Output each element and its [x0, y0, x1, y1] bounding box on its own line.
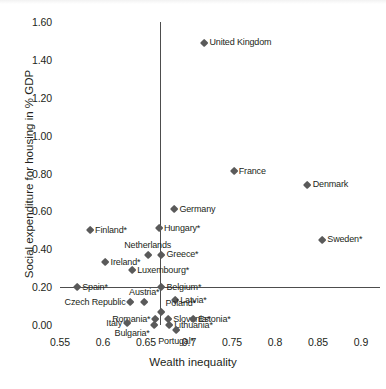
diamond-marker-icon — [101, 258, 110, 267]
y-tick-label: 0.00 — [18, 319, 52, 331]
data-point-label: Greece* — [166, 250, 198, 259]
data-point-label: Austria* — [129, 288, 159, 297]
data-point-label: Lithuania* — [174, 321, 213, 330]
data-point-label: Netherlands — [124, 241, 171, 250]
diamond-marker-icon — [157, 307, 166, 316]
data-point-label: Poland* — [165, 299, 195, 308]
diamond-marker-icon — [73, 283, 82, 292]
y-axis-title: Social expenditure for housing in % GDP — [23, 49, 35, 299]
data-point-label: Italy — [106, 319, 122, 328]
diamond-marker-icon — [303, 180, 312, 189]
data-point-label: Germany — [179, 205, 215, 214]
data-point-label: Spain* — [82, 283, 108, 292]
x-tick-label: 0.75 — [212, 336, 252, 348]
plot-area: 0.000.200.400.600.801.001.201.401.60 0.5… — [0, 0, 386, 389]
y-tick-label: 1.60 — [18, 16, 52, 28]
x-tick-label: 0.55 — [40, 336, 80, 348]
diamond-marker-icon — [229, 167, 238, 176]
data-point-label: Sweden* — [327, 235, 362, 244]
diamond-marker-icon — [149, 320, 158, 329]
bottom-margin — [0, 377, 386, 389]
data-point-label: Luxembourg* — [137, 266, 189, 275]
x-tick-label: 0.9 — [341, 336, 381, 348]
x-axis-title: Wealth inequality — [0, 356, 386, 368]
diamond-marker-icon — [126, 298, 135, 307]
data-point-label: France — [239, 167, 266, 176]
data-point-label: Bulgaria* — [115, 329, 150, 338]
diamond-marker-icon — [157, 250, 166, 259]
x-tick-label: 0.85 — [298, 336, 338, 348]
diamond-marker-icon — [318, 235, 327, 244]
diamond-marker-icon — [200, 38, 209, 47]
x-tick-label: 0.8 — [255, 336, 295, 348]
data-point-label: Finland* — [95, 226, 127, 235]
data-point-label: United Kingdom — [209, 38, 271, 47]
data-point-label: Czech Republic — [65, 298, 126, 307]
diamond-marker-icon — [86, 226, 95, 235]
data-point-label: Ireland* — [111, 258, 141, 267]
data-point-label: Hungary* — [164, 224, 200, 233]
horizontal-reference-line — [60, 287, 380, 288]
scatter-chart: 0.000.200.400.600.801.001.201.401.60 0.5… — [0, 0, 386, 389]
vertical-reference-line — [160, 22, 161, 325]
data-point-label: Belgium* — [166, 283, 201, 292]
diamond-marker-icon — [140, 298, 149, 307]
data-point-label: Denmark — [313, 180, 348, 189]
diamond-marker-icon — [143, 250, 152, 259]
diamond-marker-icon — [154, 224, 163, 233]
diamond-marker-icon — [170, 205, 179, 214]
data-point-label: Portugal* — [158, 337, 194, 346]
